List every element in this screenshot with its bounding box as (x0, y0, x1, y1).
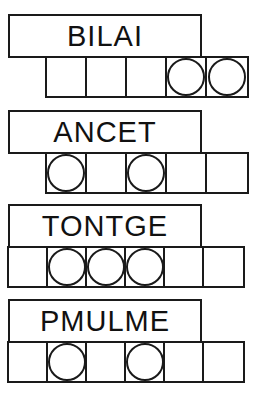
scrambled-word-text: PMULME (40, 307, 170, 336)
scrambled-word-box: ANCET (8, 110, 202, 154)
answer-cell[interactable] (87, 58, 127, 96)
circle-icon (167, 58, 205, 96)
answer-cell[interactable] (127, 58, 167, 96)
circle-icon (208, 58, 246, 96)
circle-icon (47, 154, 85, 192)
circle-icon (126, 248, 164, 286)
answer-letter-grid (45, 56, 249, 98)
circle-icon (48, 343, 86, 381)
circle-icon (87, 248, 125, 286)
answer-cell-circled[interactable] (126, 248, 165, 286)
answer-cell-circled[interactable] (87, 248, 126, 286)
circle-icon (127, 154, 165, 192)
answer-cell-circled[interactable] (48, 248, 87, 286)
answer-cell[interactable] (87, 154, 127, 192)
answer-cell[interactable] (207, 154, 247, 192)
scrambled-word-text: TONTGE (42, 212, 168, 241)
answer-cell[interactable] (167, 154, 207, 192)
answer-cell[interactable] (9, 248, 48, 286)
word-scramble-worksheet: BILAIANCETTONTGEPMULME (0, 0, 256, 417)
scrambled-word-box: TONTGE (8, 204, 202, 248)
answer-letter-grid (7, 246, 245, 288)
answer-cell-circled[interactable] (126, 343, 165, 381)
scrambled-word-text: ANCET (53, 118, 156, 147)
scrambled-word-text: BILAI (67, 22, 143, 51)
answer-cell[interactable] (9, 343, 48, 381)
answer-cell-circled[interactable] (127, 154, 167, 192)
answer-cell[interactable] (204, 248, 243, 286)
answer-cell-circled[interactable] (48, 343, 87, 381)
scrambled-word-box: BILAI (8, 14, 202, 58)
answer-cell-circled[interactable] (207, 58, 247, 96)
answer-cell[interactable] (165, 248, 204, 286)
answer-cell-circled[interactable] (47, 154, 87, 192)
answer-cell[interactable] (204, 343, 243, 381)
scrambled-word-box: PMULME (8, 299, 202, 343)
answer-cell[interactable] (87, 343, 126, 381)
answer-cell-circled[interactable] (167, 58, 207, 96)
circle-icon (126, 343, 164, 381)
answer-cell[interactable] (47, 58, 87, 96)
answer-letter-grid (45, 152, 249, 194)
circle-icon (48, 248, 86, 286)
answer-cell[interactable] (165, 343, 204, 381)
answer-letter-grid (7, 341, 245, 383)
